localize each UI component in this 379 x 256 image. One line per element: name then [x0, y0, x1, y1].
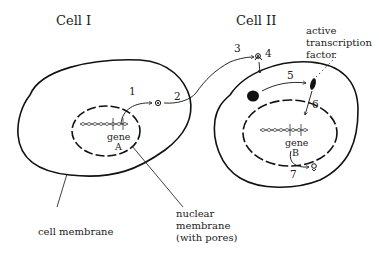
step-2-label: 2 [174, 90, 181, 102]
gene-b-id: B [292, 147, 299, 158]
nuclear-membrane-label-1: nuclear [176, 208, 215, 219]
step-5-arrow [262, 82, 306, 91]
cell-1-membrane [18, 60, 191, 176]
step-1-label: 1 [129, 85, 136, 97]
step-5-label: 5 [287, 69, 294, 81]
cell-membrane-label: cell membrane [38, 226, 114, 237]
step-6-label: 6 [312, 98, 319, 110]
step-4-label: 4 [265, 47, 272, 59]
nuclear-membrane-label-2: membrane [176, 220, 230, 231]
cell-2-title: Cell II [236, 13, 276, 28]
cell-signaling-diagram: Cell I gene A 1 2 cell membrane nuclear … [0, 0, 379, 256]
tf-label-1: active [306, 25, 336, 36]
inactive-transcription-factor-icon [247, 91, 259, 102]
dna-strand-icon [80, 118, 128, 130]
step-7-label: 7 [290, 168, 297, 180]
receptor-bound-signal-icon [255, 54, 262, 60]
dna-strand-icon [260, 124, 308, 136]
step-3-label: 3 [234, 42, 241, 54]
signal-molecule-icon [155, 100, 160, 105]
nuclear-membrane-label-3: (with pores) [176, 232, 238, 243]
tf-label-3: factor [306, 49, 336, 60]
tf-label-2: transcription [306, 37, 373, 48]
protein-product-icon [312, 164, 317, 171]
active-transcription-factor-icon [309, 78, 317, 91]
cell-1-title: Cell I [56, 13, 91, 28]
cell-membrane-pointer [57, 174, 67, 207]
gene-a-id: A [114, 141, 122, 152]
